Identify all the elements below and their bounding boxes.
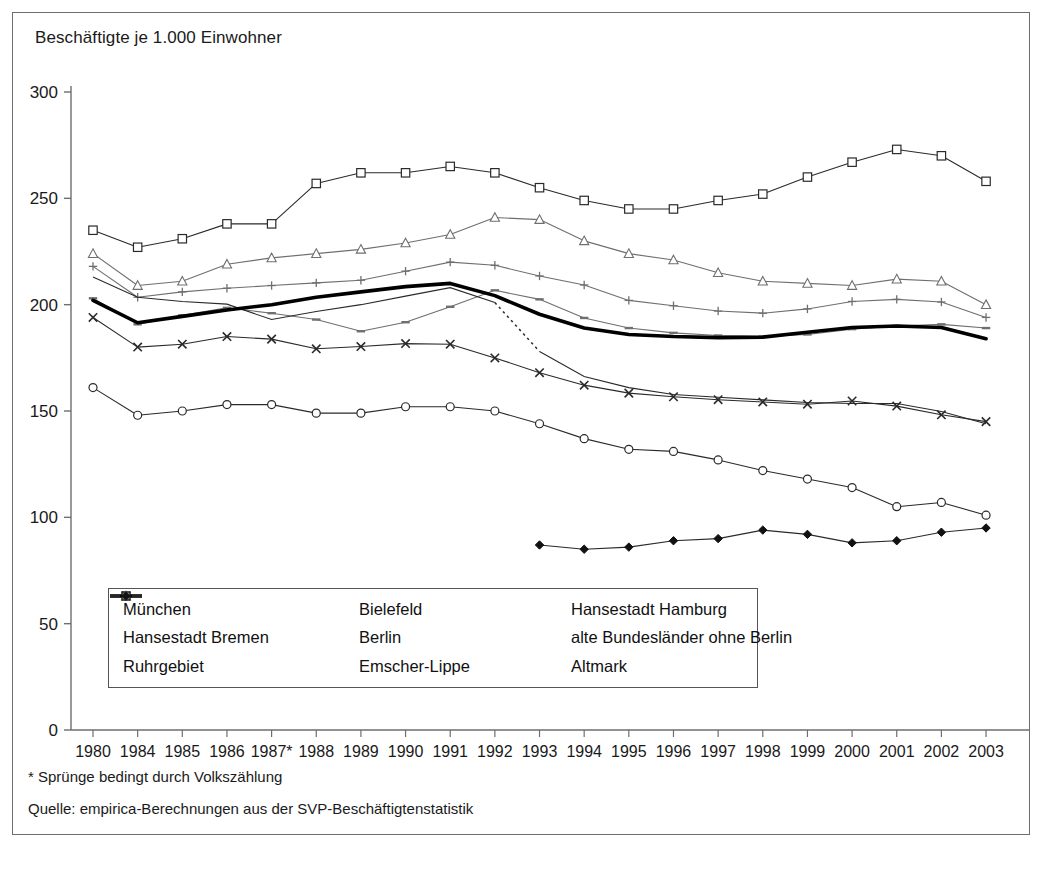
svg-text:1984: 1984 [120, 743, 156, 760]
svg-text:150: 150 [30, 402, 58, 421]
legend-label: alte Bundesländer ohne Berlin [571, 628, 792, 647]
chart-legend: MünchenBielefeldHansestadt HamburgHanses… [108, 588, 758, 688]
legend-label: Ruhrgebiet [123, 657, 204, 676]
series-m-nchen [89, 145, 990, 251]
svg-text:1998: 1998 [745, 743, 781, 760]
chart-page: Beschäftigte je 1.000 Einwohner 05010015… [0, 0, 1042, 872]
series-altmark [535, 524, 990, 554]
svg-text:1980: 1980 [75, 743, 111, 760]
legend-label: Bielefeld [359, 600, 422, 619]
legend-item-altmark: Altmark [571, 657, 792, 676]
legend-item-m-nchen: München [123, 600, 359, 619]
svg-text:1993: 1993 [522, 743, 558, 760]
diamond-filled-icon [109, 589, 143, 603]
svg-text:1997: 1997 [700, 743, 736, 760]
svg-text:1989: 1989 [343, 743, 379, 760]
svg-text:2000: 2000 [834, 743, 870, 760]
svg-text:1995: 1995 [611, 743, 647, 760]
svg-text:50: 50 [39, 615, 58, 634]
legend-label: Altmark [571, 657, 627, 676]
svg-text:2001: 2001 [879, 743, 915, 760]
svg-text:1992: 1992 [477, 743, 513, 760]
svg-text:1996: 1996 [656, 743, 692, 760]
svg-text:300: 300 [30, 83, 58, 102]
line-chart-svg: 05010015020025030019801984198519861987*1… [0, 0, 1042, 872]
svg-text:250: 250 [30, 189, 58, 208]
legend-item-alte-bundesl-nder-ohne-berlin: alte Bundesländer ohne Berlin [571, 628, 792, 647]
svg-text:1987*: 1987* [251, 743, 293, 760]
svg-text:1985: 1985 [165, 743, 201, 760]
svg-text:1986: 1986 [209, 743, 245, 760]
legend-label: Emscher-Lippe [359, 657, 470, 676]
legend-item-bielefeld: Bielefeld [359, 600, 571, 619]
svg-text:2002: 2002 [924, 743, 960, 760]
svg-text:2003: 2003 [968, 743, 1004, 760]
svg-text:200: 200 [30, 296, 58, 315]
legend-item-hansestadt-hamburg: Hansestadt Hamburg [571, 600, 792, 619]
legend-item-hansestadt-bremen: Hansestadt Bremen [123, 628, 359, 647]
svg-text:1994: 1994 [566, 743, 602, 760]
svg-text:1988: 1988 [298, 743, 334, 760]
legend-label: Hansestadt Bremen [123, 628, 269, 647]
svg-text:1999: 1999 [790, 743, 826, 760]
svg-text:100: 100 [30, 508, 58, 527]
legend-item-emscher-lippe: Emscher-Lippe [359, 657, 571, 676]
svg-text:1990: 1990 [388, 743, 424, 760]
svg-text:1991: 1991 [432, 743, 468, 760]
legend-item-ruhrgebiet: Ruhrgebiet [123, 657, 359, 676]
svg-text:0: 0 [49, 721, 58, 740]
legend-label: Hansestadt Hamburg [571, 600, 727, 619]
legend-item-berlin: Berlin [359, 628, 571, 647]
source-note: Quelle: empirica-Berechnungen aus der SV… [28, 800, 473, 817]
footnote-census: * Sprünge bedingt durch Volkszählung [28, 768, 282, 785]
legend-label: Berlin [359, 628, 401, 647]
